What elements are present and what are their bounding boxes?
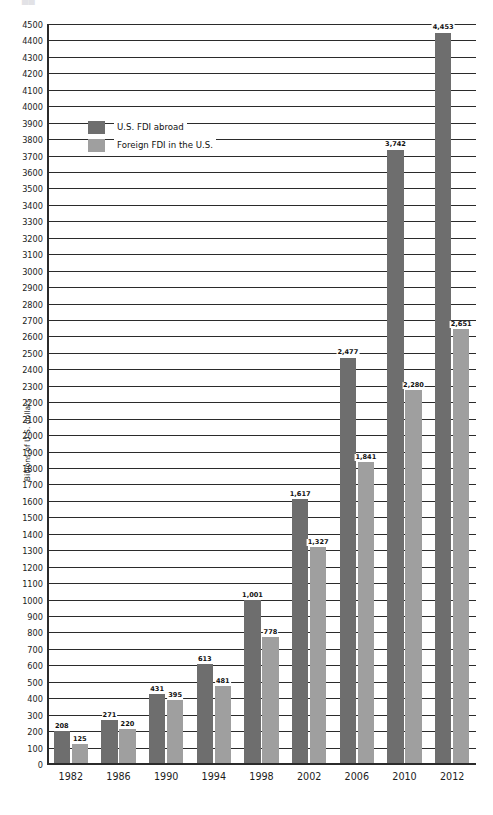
bar-value-label: 1,841 [354,454,377,461]
y-axis-tick-label: 2600 [22,333,43,341]
legend-item-label: Foreign FDI in the U.S. [114,139,216,151]
bar-value-label: 2,280 [402,382,425,389]
bar-value-label: 1,327 [307,539,330,546]
bar-group: 1,0017781998 [244,25,279,765]
y-axis-tick-label: 4300 [22,54,43,62]
y-axis-tick-label: 600 [27,662,43,670]
bar-value-label: 208 [54,723,70,730]
bar: 4,453 [435,33,452,765]
bar: 220 [119,729,136,765]
bar-value-label: 220 [120,721,136,728]
x-axis-line [47,763,476,765]
y-axis-tick-label: 700 [27,646,43,654]
bar: 481 [215,686,232,765]
cut-off-title-remnant: ██ [22,0,35,5]
bar-value-label: 3,742 [384,141,407,148]
bar-value-label: 613 [197,656,213,663]
bar: 1,001 [244,600,261,765]
light-gray-swatch-icon [88,139,105,152]
y-axis-tick-label: 3200 [22,235,43,243]
chart-legend: U.S. FDI abroadForeign FDI in the U.S. [88,118,216,154]
y-axis-line [47,25,49,765]
y-axis-tick-label: 1600 [22,498,43,506]
bar-value-label: 395 [167,692,183,699]
y-axis-tick-label: 3700 [22,152,43,160]
bar: 613 [197,664,214,765]
y-axis-tick-label: 3900 [22,120,43,128]
y-axis-tick-label: 3300 [22,218,43,226]
bar: 1,327 [310,547,327,765]
bar-group: 1,6171,3272002 [292,25,327,765]
bar: 3,742 [387,150,404,765]
y-axis-tick-label: 1300 [22,547,43,555]
y-axis-tick-label: 3600 [22,169,43,177]
x-axis-category-label: 1990 [154,771,178,782]
chart-page: ██ Billions of U.S. dollars 010020030040… [0,0,493,815]
legend-item: U.S. FDI abroad [88,118,216,136]
y-axis-tick-label: 100 [27,744,43,752]
y-axis-tick-label: 1800 [22,465,43,473]
y-axis-tick-label: 2500 [22,350,43,358]
y-axis-tick-label: 3400 [22,202,43,210]
dark-gray-swatch-icon [88,121,105,134]
bar: 395 [167,700,184,765]
bar: 1,841 [358,462,375,765]
y-axis-tick-label: 200 [27,728,43,736]
bar: 2,280 [405,390,422,765]
x-axis-category-label: 2006 [345,771,369,782]
y-axis-tick-label: 2200 [22,399,43,407]
y-axis-tick-label: 2300 [22,383,43,391]
x-axis-category-label: 1982 [59,771,83,782]
y-axis-tick-label: 500 [27,679,43,687]
y-axis-tick-label: 1400 [22,531,43,539]
legend-item: Foreign FDI in the U.S. [88,136,216,154]
y-axis-tick-label: 1200 [22,564,43,572]
y-axis-tick-label: 3800 [22,136,43,144]
y-axis-tick-label: 3000 [22,268,43,276]
y-axis-tick-label: 800 [27,629,43,637]
bar: 431 [149,694,166,765]
bar-value-label: 2,651 [450,321,473,328]
y-axis-tick-label: 0 [38,761,43,769]
y-axis-tick-label: 4400 [22,37,43,45]
x-axis-category-label: 1986 [106,771,130,782]
bar-group: 2,4771,8412006 [340,25,375,765]
y-axis-tick-label: 2100 [22,416,43,424]
bar-value-label: 1,617 [289,491,312,498]
bar-value-label: 431 [149,686,165,693]
y-axis-tick-label: 4000 [22,103,43,111]
y-axis-tick-label: 2000 [22,432,43,440]
legend-item-label: U.S. FDI abroad [114,121,187,133]
bar-group: 3,7422,2802010 [387,25,422,765]
y-axis-tick-label: 4100 [22,87,43,95]
bar: 778 [262,637,279,765]
bar-value-label: 4,453 [432,24,455,31]
y-axis-tick-label: 4500 [22,21,43,29]
x-axis-category-label: 2002 [297,771,321,782]
x-axis-category-label: 2012 [440,771,464,782]
bar-value-label: 271 [102,712,118,719]
y-axis-tick-label: 3100 [22,251,43,259]
y-axis-tick-label: 400 [27,695,43,703]
bar: 2,651 [453,329,470,765]
bar-value-label: 481 [215,678,231,685]
bar-value-label: 125 [72,736,88,743]
y-axis-tick-label: 3500 [22,185,43,193]
y-axis-tick-label: 2900 [22,284,43,292]
bar-group: 2081251982 [54,25,89,765]
x-axis-category-label: 2010 [392,771,416,782]
bar: 2,477 [340,358,357,765]
y-axis-tick-label: 2400 [22,366,43,374]
bar-value-label: 1,001 [241,592,264,599]
bar: 271 [101,720,118,765]
x-axis-category-label: 1994 [202,771,226,782]
bar: 208 [54,731,71,765]
bar-group: 4,4532,6512012 [435,25,470,765]
y-axis-tick-label: 1900 [22,448,43,456]
y-axis-tick-label: 2800 [22,300,43,308]
y-axis-tick-label: 1500 [22,514,43,522]
bar: 125 [72,744,89,765]
y-axis-tick-label: 300 [27,712,43,720]
y-axis-tick-label: 2700 [22,317,43,325]
y-axis-tick-label: 1000 [22,596,43,604]
